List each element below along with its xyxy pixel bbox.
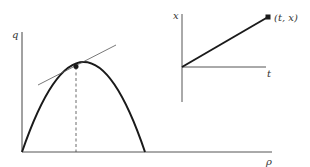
diagram-canvas: q ρ x t (t, x) (0, 0, 310, 167)
right-plot: x t (t, x) (173, 10, 298, 102)
t-axis-label: t (267, 68, 272, 79)
left-plot: q ρ (12, 29, 272, 167)
rho-axis-label: ρ (265, 156, 272, 167)
q-axis-label: q (12, 29, 18, 40)
trajectory-line (182, 17, 268, 67)
tangent-point (74, 64, 79, 69)
point-label: (t, x) (274, 12, 298, 23)
parabola-curve (22, 62, 145, 152)
endpoint-marker (266, 15, 271, 20)
x-axis-label: x (173, 10, 179, 21)
